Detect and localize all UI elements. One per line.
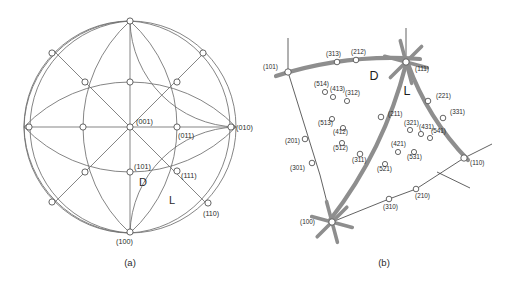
pole-(313)[interactable] bbox=[334, 59, 340, 65]
pole-label-(521): (521) bbox=[377, 165, 392, 173]
panel-a: (001)(011)(010)(101)(111)(110)(100)DL(a) bbox=[24, 18, 253, 268]
pole-label-(311): (311) bbox=[352, 156, 366, 164]
pole-label-(421): (421) bbox=[391, 140, 406, 148]
pole-(110)[interactable] bbox=[461, 155, 467, 161]
pole-(101)[interactable] bbox=[285, 69, 291, 75]
pole-label-(513): (513) bbox=[318, 119, 333, 127]
pole-label-(310): (310) bbox=[383, 203, 398, 211]
pole-label-(301): (301) bbox=[290, 164, 305, 172]
pole-(221)[interactable] bbox=[425, 98, 431, 104]
pole-(210)[interactable] bbox=[413, 186, 419, 192]
region-label-L: L bbox=[169, 194, 175, 206]
pole-(541)[interactable] bbox=[427, 135, 432, 140]
pole-label-(531): (531) bbox=[407, 153, 422, 161]
figure-canvas: (001)(011)(010)(101)(111)(110)(100)DL(a)… bbox=[0, 0, 507, 281]
pole-(312)[interactable] bbox=[344, 98, 349, 103]
pole-label-(210): (210) bbox=[415, 192, 430, 200]
pole-(201)[interactable] bbox=[302, 136, 308, 142]
panel-b-caption: (b) bbox=[378, 257, 390, 268]
pole-label-(331): (331) bbox=[450, 108, 465, 116]
pole-(010)[interactable] bbox=[228, 124, 234, 130]
region-label-D: D bbox=[139, 176, 147, 188]
zone-thin-line-7 bbox=[437, 172, 470, 188]
pole-(110)[interactable] bbox=[205, 200, 211, 206]
pole-(421)[interactable] bbox=[395, 149, 400, 154]
pole-label-(100): (100) bbox=[300, 218, 315, 226]
pole-node-7[interactable] bbox=[127, 18, 133, 24]
pole-label-(211): (211) bbox=[388, 110, 402, 118]
zone-thin-line-4 bbox=[389, 189, 416, 199]
pole-(101)[interactable] bbox=[127, 169, 133, 175]
pole-label-(313): (313) bbox=[326, 50, 341, 58]
pole-node-10[interactable] bbox=[49, 50, 55, 56]
pole-(001)[interactable] bbox=[127, 124, 133, 130]
pole-(431)[interactable] bbox=[418, 131, 423, 136]
pole-node-15[interactable] bbox=[80, 124, 86, 130]
panel-b: (111)(100)(101)(110)(313)(212)(221)(331)… bbox=[263, 28, 492, 268]
pole-(514)[interactable] bbox=[322, 89, 327, 94]
pole-label-(101): (101) bbox=[134, 162, 151, 171]
pole-node-9[interactable] bbox=[127, 79, 133, 85]
pole-(331)[interactable] bbox=[440, 115, 446, 121]
zone-thin-line-6 bbox=[464, 144, 492, 158]
pole-label-(001): (001) bbox=[136, 117, 153, 126]
pole-label-(110): (110) bbox=[203, 209, 219, 218]
pole-label-(011): (011) bbox=[178, 131, 194, 140]
pole-(111)[interactable] bbox=[174, 168, 180, 174]
region-label-b-L: L bbox=[404, 84, 411, 98]
pole-(310)[interactable] bbox=[386, 196, 392, 202]
pole-node-11[interactable] bbox=[200, 50, 206, 56]
pole-(321)[interactable] bbox=[407, 127, 412, 132]
pole-node-13[interactable] bbox=[82, 79, 88, 85]
pole-label-(110): (110) bbox=[470, 159, 484, 167]
pole-label-(512): (512) bbox=[333, 144, 348, 152]
pole-label-(312): (312) bbox=[345, 89, 360, 97]
pole-(100)[interactable] bbox=[329, 219, 335, 225]
pole-(413)[interactable] bbox=[330, 94, 335, 99]
pole-label-(111): (111) bbox=[415, 65, 429, 73]
pole-(211)[interactable] bbox=[378, 114, 384, 120]
pole-(100)[interactable] bbox=[127, 229, 133, 235]
pole-label-(212): (212) bbox=[351, 48, 366, 56]
pole-(212)[interactable] bbox=[353, 57, 359, 63]
pole-node-8[interactable] bbox=[26, 124, 32, 130]
pole-node-14[interactable] bbox=[174, 79, 180, 85]
pole-(111)[interactable] bbox=[403, 59, 409, 65]
pole-label-(010): (010) bbox=[236, 123, 253, 132]
panel-a-caption: (a) bbox=[124, 257, 136, 268]
pole-(301)[interactable] bbox=[309, 160, 315, 166]
zone-thin-line-1 bbox=[288, 72, 320, 175]
pole-label-(321): (321) bbox=[404, 119, 419, 127]
region-label-b-D: D bbox=[369, 69, 378, 83]
pole-label-(514): (514) bbox=[314, 80, 329, 88]
pole-label-(412): (412) bbox=[333, 128, 348, 136]
pole-label-(201): (201) bbox=[285, 137, 300, 145]
pole-label-(111): (111) bbox=[181, 171, 197, 180]
pole-label-(101): (101) bbox=[263, 63, 278, 71]
pole-label-(413): (413) bbox=[330, 85, 345, 93]
pole-(011)[interactable] bbox=[174, 124, 180, 130]
pole-label-(541): (541) bbox=[431, 127, 446, 135]
pole-node-12[interactable] bbox=[49, 199, 55, 205]
pole-label-(221): (221) bbox=[436, 92, 451, 100]
pole-node-16[interactable] bbox=[82, 169, 88, 175]
pole-label-(100): (100) bbox=[116, 237, 133, 246]
